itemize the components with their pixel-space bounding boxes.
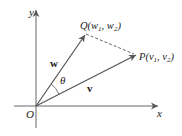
x-axis-label: x [156, 107, 162, 119]
vector-w [36, 35, 85, 106]
point-q-label: Q(w1, w2) [80, 20, 121, 33]
dashed-segment-qp [86, 34, 134, 54]
angle-theta-label: θ [60, 74, 66, 86]
vector-w-label: w [50, 57, 58, 69]
angle-arc [51, 84, 59, 94]
point-p-label: P(v1, v2) [138, 51, 175, 64]
y-axis-label: y [28, 6, 34, 18]
vector-v-label: v [87, 82, 93, 94]
origin-label: O [26, 108, 34, 120]
vector-angle-diagram: y x O Q(w1, w2) P(v1, v2) w v θ [0, 0, 182, 136]
